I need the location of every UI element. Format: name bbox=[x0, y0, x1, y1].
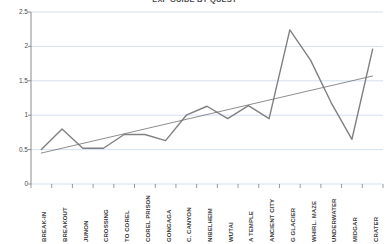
data-series-path bbox=[41, 30, 372, 150]
x-axis-tick-label: CRATER bbox=[373, 217, 379, 242]
x-axis-tick-label: NIBELHEIM bbox=[207, 208, 213, 242]
x-axis-tick-label: GONGAGA bbox=[166, 210, 172, 242]
x-axis-tick-label: WHIRL. MAZE bbox=[311, 201, 317, 242]
x-axis-tick-label: BREAK-IN bbox=[41, 212, 47, 242]
x-axis-tick-label: WUTAI bbox=[228, 222, 234, 242]
x-axis-tick-label: A TEMPLE bbox=[248, 211, 254, 242]
x-axis-tick-label: TO COREL bbox=[124, 210, 130, 242]
x-axis-tick-label: CROSSING bbox=[103, 209, 109, 242]
chart-container: EXP GUIDE BY QUEST 00.511.522.5 BREAK-IN… bbox=[0, 0, 389, 244]
x-axis-tick-label: C. CANYON bbox=[186, 207, 192, 242]
x-axis-tick-crater: CRATER bbox=[370, 186, 389, 242]
x-axis-tick-label: MIDGAR bbox=[352, 217, 358, 242]
x-axis-tick-label: BREAKOUT bbox=[62, 207, 68, 242]
x-axis-tick-label: ANCIENT CITY bbox=[269, 199, 275, 242]
x-axis-tick-label: COREL PRISON bbox=[145, 195, 151, 242]
x-axis-tick-label: G GLACIER bbox=[290, 208, 296, 242]
x-axis-tick-labels: BREAK-INBREAKOUTJUNONCROSSINGTO CORELCOR… bbox=[31, 186, 383, 244]
trendline-path bbox=[41, 76, 372, 153]
x-axis-tick-label: JUNON bbox=[83, 220, 89, 242]
x-axis-tick-label: UNDERWATER bbox=[331, 199, 337, 242]
